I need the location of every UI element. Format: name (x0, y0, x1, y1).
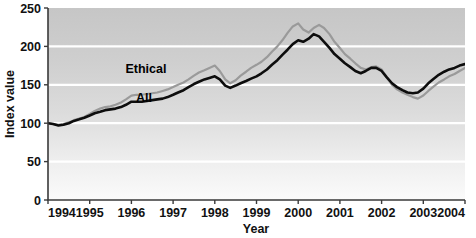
x-tick-label-2000: 2000 (284, 206, 312, 220)
y-tick-label-0: 0 (34, 194, 41, 208)
x-tick-label-1997: 1997 (159, 206, 187, 220)
x-tick-label-1996: 1996 (117, 206, 145, 220)
index-value-line-chart: 050100150200250 199419951996199719981999… (0, 0, 476, 238)
y-tick-label-50: 50 (27, 155, 41, 169)
chart-container: 050100150200250 199419951996199719981999… (0, 0, 476, 238)
x-axis-title: Year (243, 222, 270, 236)
x-tick-label-1995: 1995 (76, 206, 104, 220)
y-tick-label-250: 250 (20, 2, 41, 16)
plot-background (48, 8, 465, 200)
y-tick-label-200: 200 (20, 40, 41, 54)
x-tick-label-2001: 2001 (326, 206, 354, 220)
series-label-ethical: Ethical (125, 62, 166, 76)
y-axis-title: Index value (3, 70, 17, 138)
x-axis-ticks: 1994199519961997199819992000200120022003… (48, 200, 465, 220)
x-tick-label-2002: 2002 (368, 206, 396, 220)
x-tick-label-1994: 1994 (48, 206, 76, 220)
y-axis-ticks: 050100150200250 (20, 2, 48, 208)
x-tick-label-1998: 1998 (201, 206, 229, 220)
x-tick-label-2004: 2004 (437, 206, 465, 220)
series-label-all: All (136, 91, 152, 105)
y-tick-label-150: 150 (20, 78, 41, 92)
y-tick-label-100: 100 (20, 117, 41, 131)
x-tick-label-2003: 2003 (409, 206, 437, 220)
x-tick-label-1999: 1999 (243, 206, 271, 220)
